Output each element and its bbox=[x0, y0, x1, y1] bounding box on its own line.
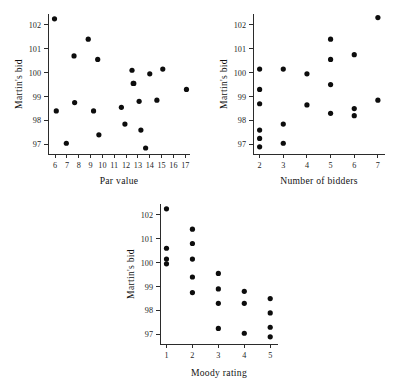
x-tick-label: 11 bbox=[110, 161, 118, 170]
data-point bbox=[281, 141, 286, 146]
y-tick-label: 102 bbox=[141, 211, 153, 220]
data-point bbox=[257, 136, 262, 141]
data-point bbox=[268, 296, 273, 301]
data-point bbox=[54, 108, 59, 113]
data-point bbox=[304, 71, 309, 76]
data-point bbox=[352, 52, 357, 57]
y-tick-label: 99 bbox=[33, 93, 41, 102]
data-point bbox=[216, 326, 221, 331]
data-point bbox=[154, 98, 159, 103]
plot-area-2: 97989910010110212345Moody ratingMartin's… bbox=[100, 188, 300, 384]
data-point bbox=[304, 102, 309, 107]
data-point bbox=[281, 66, 286, 71]
data-point bbox=[52, 16, 57, 21]
x-tick-label: 9 bbox=[89, 161, 93, 170]
data-point bbox=[190, 227, 195, 232]
data-point bbox=[328, 82, 333, 87]
x-tick-label: 3 bbox=[216, 351, 220, 360]
scatter-panel-par-value: 97989910010110267891011121314151617Par v… bbox=[0, 0, 200, 190]
x-axis-title: Moody rating bbox=[191, 367, 247, 378]
data-point bbox=[95, 57, 100, 62]
y-tick-label: 102 bbox=[234, 21, 246, 30]
x-tick-label: 4 bbox=[305, 161, 309, 170]
y-tick-label: 98 bbox=[238, 116, 246, 125]
x-tick-label: 5 bbox=[329, 161, 333, 170]
y-tick-label: 100 bbox=[141, 259, 153, 268]
y-tick-label: 99 bbox=[145, 283, 153, 292]
data-point bbox=[257, 144, 262, 149]
data-point bbox=[242, 331, 247, 336]
x-tick-label: 2 bbox=[190, 351, 194, 360]
x-tick-label: 1 bbox=[164, 351, 168, 360]
y-tick-label: 101 bbox=[234, 45, 246, 54]
data-point bbox=[164, 256, 169, 261]
x-tick-label: 4 bbox=[242, 351, 246, 360]
data-point bbox=[216, 286, 221, 291]
data-point bbox=[352, 106, 357, 111]
y-tick-label: 100 bbox=[29, 69, 41, 78]
y-axis-title: Martin's bid bbox=[218, 59, 229, 109]
data-point bbox=[86, 37, 91, 42]
y-tick-label: 98 bbox=[33, 116, 41, 125]
y-tick-label: 98 bbox=[145, 306, 153, 315]
x-tick-label: 17 bbox=[181, 161, 189, 170]
data-point bbox=[328, 57, 333, 62]
x-axis-title: Par value bbox=[100, 175, 139, 186]
data-point bbox=[257, 127, 262, 132]
data-point bbox=[131, 81, 136, 86]
data-point bbox=[242, 301, 247, 306]
data-point bbox=[190, 256, 195, 261]
data-point bbox=[190, 241, 195, 246]
data-point bbox=[164, 261, 169, 266]
x-tick-label: 15 bbox=[158, 161, 166, 170]
plot-area-1: 979899100101102234567Number of biddersMa… bbox=[205, 0, 395, 190]
y-tick-label: 97 bbox=[33, 140, 41, 149]
x-tick-label: 10 bbox=[98, 161, 106, 170]
data-point bbox=[71, 53, 76, 58]
data-point bbox=[328, 37, 333, 42]
data-point bbox=[242, 289, 247, 294]
data-point bbox=[257, 66, 262, 71]
x-tick-label: 7 bbox=[65, 161, 69, 170]
x-tick-label: 2 bbox=[258, 161, 262, 170]
y-tick-label: 100 bbox=[234, 69, 246, 78]
x-tick-label: 14 bbox=[146, 161, 154, 170]
x-tick-label: 16 bbox=[169, 161, 177, 170]
data-point bbox=[184, 87, 189, 92]
data-point bbox=[143, 145, 148, 150]
plot-area-0: 97989910010110267891011121314151617Par v… bbox=[0, 0, 200, 190]
data-point bbox=[190, 290, 195, 295]
data-point bbox=[147, 71, 152, 76]
data-point bbox=[216, 301, 221, 306]
x-tick-label: 6 bbox=[53, 161, 57, 170]
x-tick-label: 13 bbox=[134, 161, 142, 170]
data-point bbox=[352, 113, 357, 118]
data-point bbox=[96, 132, 101, 137]
data-point bbox=[268, 325, 273, 330]
data-point bbox=[129, 68, 134, 73]
y-tick-label: 99 bbox=[238, 93, 246, 102]
data-point bbox=[72, 100, 77, 105]
y-tick-label: 101 bbox=[29, 45, 41, 54]
scatter-panel-moody-rating: 97989910010110212345Moody ratingMartin's… bbox=[100, 188, 300, 384]
data-point bbox=[119, 105, 124, 110]
data-point bbox=[138, 127, 143, 132]
x-tick-label: 6 bbox=[352, 161, 356, 170]
y-axis-title: Martin's bid bbox=[125, 249, 136, 299]
data-point bbox=[164, 246, 169, 251]
x-tick-label: 12 bbox=[122, 161, 130, 170]
data-point bbox=[91, 108, 96, 113]
scatter-panel-number-of-bidders: 979899100101102234567Number of biddersMa… bbox=[205, 0, 395, 190]
data-point bbox=[281, 121, 286, 126]
data-point bbox=[190, 274, 195, 279]
data-point bbox=[257, 101, 262, 106]
y-axis-title: Martin's bid bbox=[13, 59, 24, 109]
x-tick-label: 7 bbox=[376, 161, 380, 170]
y-tick-label: 102 bbox=[29, 21, 41, 30]
data-point bbox=[268, 310, 273, 315]
data-point bbox=[375, 15, 380, 20]
data-point bbox=[122, 121, 127, 126]
x-tick-label: 3 bbox=[281, 161, 285, 170]
x-axis-title: Number of bidders bbox=[280, 175, 358, 186]
data-point bbox=[268, 334, 273, 339]
